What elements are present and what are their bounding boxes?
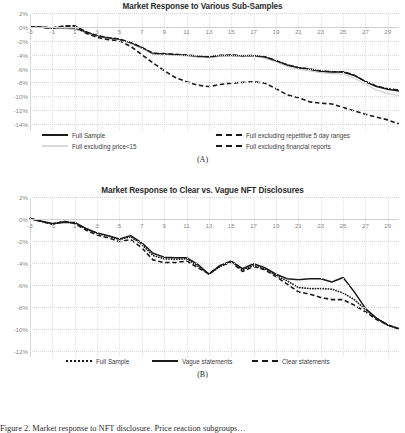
vertical-gridline	[119, 197, 120, 357]
y-tick-label: -8%	[17, 304, 28, 311]
x-tick-label: -3	[27, 28, 33, 35]
legend-item[interactable]: Clear statements	[252, 357, 330, 365]
x-tick-label: 9	[162, 222, 165, 229]
x-tick-label: -1	[50, 28, 56, 35]
chart-b-title: Market Response to Clear vs. Vague NFT D…	[0, 183, 405, 197]
x-tick-label: 25	[340, 222, 347, 229]
chart-a-panel-label: (A)	[0, 155, 405, 164]
legend-swatch-icon	[66, 357, 92, 365]
legend-item[interactable]: Full Sample	[66, 357, 129, 365]
y-tick-label: 2%	[19, 10, 28, 17]
legend-item[interactable]: Full Sample	[42, 131, 105, 139]
panel-b: Market Response to Clear vs. Vague NFT D…	[0, 183, 405, 415]
legend-row: Full SampleFull excluding repetitive 5 d…	[0, 131, 405, 142]
chart-a-plot-area: -3-11357911131517192123252729	[30, 13, 399, 131]
vertical-gridline	[298, 197, 299, 357]
x-tick-label: 17	[250, 222, 257, 229]
x-tick-label: 13	[205, 222, 212, 229]
vertical-gridline	[52, 197, 53, 357]
vertical-gridline	[365, 197, 366, 357]
y-tick-label: -2%	[17, 238, 28, 245]
legend-label: Vague statements	[182, 358, 232, 365]
y-tick-label: -12%	[14, 348, 28, 355]
x-tick-label: 19	[273, 28, 280, 35]
y-tick-label: -2%	[17, 37, 28, 44]
vertical-gridline	[164, 197, 165, 357]
y-tick-label: -6%	[17, 282, 28, 289]
x-tick-label: 27	[362, 28, 369, 35]
legend-row: Full SampleVague statementsClear stateme…	[0, 357, 405, 368]
x-tick-label: 3	[95, 28, 98, 35]
y-tick-label: -10%	[14, 93, 28, 100]
x-tick-label: -1	[50, 222, 56, 229]
x-tick-label: -3	[27, 222, 33, 229]
legend-swatch-icon	[216, 131, 242, 139]
legend-swatch-icon	[216, 142, 242, 150]
y-tick-label: -10%	[14, 326, 28, 333]
x-tick-label: 15	[228, 28, 235, 35]
chart-b-y-axis-labels: 2%0%-2%-4%-6%-8%-10%-12%	[0, 197, 28, 357]
panel-a: Market Response to Various Sub-Samples 2…	[0, 0, 405, 180]
chart-b-legend: Full SampleVague statementsClear stateme…	[0, 357, 405, 368]
vertical-gridline	[343, 197, 344, 357]
legend-label: Full excluding price<15	[72, 143, 137, 150]
legend-label: Clear statements	[282, 358, 330, 365]
chart-a-plot: 2%0%-2%-4%-6%-8%-10%-12%-14% -3-11357911…	[0, 13, 405, 131]
vertical-gridline	[75, 197, 76, 357]
y-tick-label: 2%	[19, 194, 28, 201]
vertical-gridline	[142, 197, 143, 357]
vertical-gridline	[209, 197, 210, 357]
legend-label: Full Sample	[72, 132, 105, 139]
x-tick-label: 23	[317, 28, 324, 35]
vertical-gridline	[276, 197, 277, 357]
legend-label: Full Sample	[96, 358, 129, 365]
legend-item[interactable]: Vague statements	[152, 357, 232, 365]
x-tick-label: 11	[183, 222, 189, 229]
vertical-gridline	[254, 197, 255, 357]
legend-label: Full excluding repetitive 5 day ranges	[246, 132, 350, 139]
legend-swatch-icon	[252, 357, 278, 365]
chart-a-legend: Full SampleFull excluding repetitive 5 d…	[0, 131, 405, 153]
chart-a-y-axis-labels: 2%0%-2%-4%-6%-8%-10%-12%-14%	[0, 13, 28, 131]
x-tick-label: 15	[228, 222, 235, 229]
legend-swatch-icon	[42, 131, 68, 139]
chart-a-title: Market Response to Various Sub-Samples	[0, 0, 405, 13]
chart-b-plot: 2%0%-2%-4%-6%-8%-10%-12% -3-113579111315…	[0, 197, 405, 357]
legend-item[interactable]: Full excluding repetitive 5 day ranges	[216, 131, 350, 139]
x-tick-label: 13	[205, 28, 212, 35]
vertical-gridline	[321, 197, 322, 357]
x-tick-label: 27	[362, 222, 369, 229]
x-tick-label: 29	[384, 222, 391, 229]
legend-item[interactable]: Full excluding financial reports	[216, 142, 331, 150]
legend-label: Full excluding financial reports	[246, 143, 331, 150]
x-tick-label: 1	[73, 28, 76, 35]
x-tick-label: 11	[183, 28, 189, 35]
figure-caption: Figure 2. Market response to NFT disclos…	[0, 424, 405, 433]
x-tick-label: 29	[384, 28, 391, 35]
y-tick-label: -6%	[17, 65, 28, 72]
y-tick-label: -8%	[17, 79, 28, 86]
x-tick-label: 21	[295, 222, 302, 229]
vertical-gridline	[388, 197, 389, 357]
chart-b-panel-label: (B)	[0, 370, 405, 379]
y-tick-label: -4%	[17, 260, 28, 267]
x-tick-label: 19	[273, 222, 280, 229]
y-tick-label: -14%	[14, 121, 28, 128]
x-tick-label: 7	[140, 28, 143, 35]
chart-b-plot-area: -3-11357911131517192123252729	[30, 197, 399, 357]
vertical-gridline	[187, 197, 188, 357]
x-tick-label: 7	[140, 222, 143, 229]
legend-swatch-icon	[152, 357, 178, 365]
x-tick-label: 25	[340, 28, 347, 35]
legend-row: Full excluding price<15Full excluding fi…	[0, 142, 405, 153]
x-tick-label: 23	[317, 222, 324, 229]
x-tick-label: 3	[95, 222, 98, 229]
vertical-gridline	[231, 197, 232, 357]
x-tick-label: 21	[295, 28, 302, 35]
x-tick-label: 17	[250, 28, 257, 35]
y-tick-label: -12%	[14, 107, 28, 114]
x-tick-label: 5	[118, 222, 121, 229]
x-tick-label: 9	[162, 28, 165, 35]
legend-item[interactable]: Full excluding price<15	[42, 142, 137, 150]
x-tick-label: 5	[118, 28, 121, 35]
